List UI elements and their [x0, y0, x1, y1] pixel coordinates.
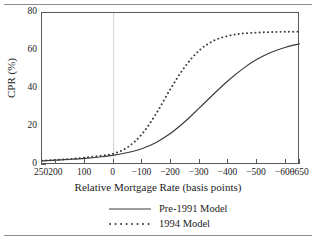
plot-area	[41, 12, 299, 164]
x-tick-mark	[299, 159, 300, 164]
x-tick-mark	[141, 159, 142, 164]
x-tick-label: 100	[77, 166, 91, 178]
x-tick-label: −400	[218, 166, 238, 178]
x-tick-mark	[113, 159, 114, 164]
chart-legend: Pre-1991 Model 1994 Model	[0, 201, 316, 231]
bottom-divider-rule	[4, 235, 312, 236]
x-tick-label: 0	[110, 166, 115, 178]
chart-canvas	[42, 13, 300, 165]
legend-swatch-dotted-icon	[108, 219, 152, 229]
legend-label-1994-model: 1994 Model	[159, 218, 210, 229]
x-tick-label: 200	[48, 166, 62, 178]
x-tick-label: −650	[289, 166, 309, 178]
x-tick-mark	[55, 159, 56, 164]
x-tick-mark	[256, 159, 257, 164]
y-tick-label: 20	[13, 121, 37, 131]
legend-swatch-solid-icon	[108, 204, 152, 214]
x-tick-label: −100	[132, 166, 152, 178]
x-tick-mark	[170, 159, 171, 164]
series-line-1994-model	[42, 32, 300, 161]
x-tick-mark	[285, 159, 286, 164]
x-axis-title: Relative Mortgage Rate (basis points)	[0, 181, 316, 193]
legend-item-pre-1991-model: Pre-1991 Model	[0, 201, 316, 216]
x-tick-label: 250	[34, 166, 48, 178]
x-tick-label: −300	[189, 166, 209, 178]
chart-figure: CPR (%) 020406080 2502001000−100−200−300…	[0, 0, 316, 240]
x-axis-tick-labels: 2502001000−100−200−300−400−500−600−650	[0, 166, 316, 179]
x-tick-mark	[227, 159, 228, 164]
y-tick-label: 80	[13, 7, 37, 17]
x-tick-mark	[84, 159, 85, 164]
x-tick-mark	[199, 159, 200, 164]
y-tick-label: 40	[13, 83, 37, 93]
top-divider-rule	[4, 4, 312, 5]
legend-label-pre-1991-model: Pre-1991 Model	[159, 203, 228, 214]
legend-item-1994-model: 1994 Model	[0, 216, 316, 231]
x-tick-label: −500	[246, 166, 266, 178]
x-tick-label: −200	[160, 166, 180, 178]
series-line-pre-1991-model	[42, 44, 300, 161]
x-tick-mark	[41, 159, 42, 164]
y-tick-label: 60	[13, 45, 37, 55]
